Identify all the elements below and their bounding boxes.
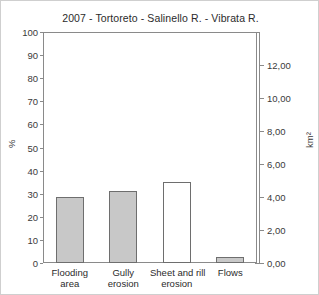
y-tick-mark-secondary bbox=[260, 263, 264, 264]
y-tick-mark-secondary bbox=[260, 164, 264, 165]
y-tick-mark-secondary bbox=[260, 65, 264, 66]
x-tick-label: Floodingarea bbox=[43, 267, 97, 289]
bar bbox=[56, 197, 84, 263]
plot-area: 0102030405060708090100 bbox=[43, 32, 257, 263]
y-axis-secondary-line bbox=[259, 32, 260, 263]
y-tick-label-primary: 80 bbox=[8, 73, 38, 84]
y-tick-label-primary: 50 bbox=[8, 142, 38, 153]
y-tick-label-primary: 70 bbox=[8, 96, 38, 107]
y-tick-mark-primary bbox=[40, 101, 43, 102]
bar bbox=[109, 191, 137, 263]
x-tick-label: Sheet and rillerosion bbox=[150, 267, 204, 289]
y-tick-label-secondary: 8,00 bbox=[267, 126, 286, 137]
y-tick-mark-primary bbox=[40, 217, 43, 218]
y-tick-label-secondary: 0,00 bbox=[267, 258, 286, 269]
y-tick-mark-primary bbox=[40, 171, 43, 172]
y-tick-label-secondary: 12,00 bbox=[267, 60, 291, 71]
y-axis-secondary-cap-top bbox=[255, 32, 260, 33]
y-tick-mark-primary bbox=[40, 148, 43, 149]
y-tick-mark-primary bbox=[40, 124, 43, 125]
chart-figure: 2007 - Tortoreto - Salinello R. - Vibrat… bbox=[0, 0, 319, 295]
x-tick-label: Gullyerosion bbox=[97, 267, 151, 289]
y-tick-label-primary: 30 bbox=[8, 188, 38, 199]
bar bbox=[216, 257, 244, 263]
y-axis-label-secondary: km² bbox=[304, 132, 315, 148]
y-tick-mark-primary bbox=[40, 78, 43, 79]
bar bbox=[163, 182, 191, 263]
y-tick-label-primary: 40 bbox=[8, 165, 38, 176]
y-tick-mark-secondary bbox=[260, 98, 264, 99]
x-tick-label: Flows bbox=[204, 267, 258, 278]
y-tick-mark-primary bbox=[40, 263, 43, 264]
y-tick-label-primary: 20 bbox=[8, 211, 38, 222]
y-tick-label-primary: 100 bbox=[8, 27, 38, 38]
y-tick-mark-primary bbox=[40, 194, 43, 195]
y-tick-label-primary: 90 bbox=[8, 50, 38, 61]
y-tick-mark-primary bbox=[40, 55, 43, 56]
y-tick-mark-primary bbox=[40, 32, 43, 33]
y-tick-mark-secondary bbox=[260, 131, 264, 132]
y-tick-mark-primary bbox=[40, 240, 43, 241]
y-tick-label-primary: 60 bbox=[8, 119, 38, 130]
y-tick-label-secondary: 10,00 bbox=[267, 93, 291, 104]
y-tick-label-primary: 10 bbox=[8, 234, 38, 245]
y-tick-label-primary: 0 bbox=[8, 258, 38, 269]
y-tick-mark-secondary bbox=[260, 230, 264, 231]
y-tick-mark-secondary bbox=[260, 197, 264, 198]
chart-title: 2007 - Tortoreto - Salinello R. - Vibrat… bbox=[1, 12, 319, 24]
y-tick-label-secondary: 4,00 bbox=[267, 192, 286, 203]
y-tick-label-secondary: 2,00 bbox=[267, 225, 286, 236]
y-tick-label-secondary: 6,00 bbox=[267, 159, 286, 170]
